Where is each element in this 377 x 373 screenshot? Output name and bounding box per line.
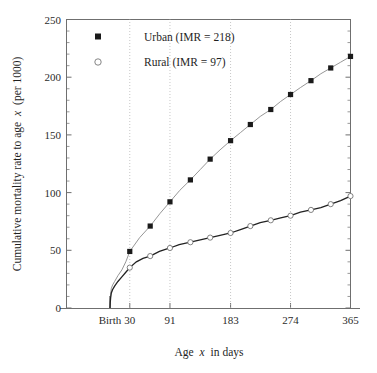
urban-marker-335: [328, 65, 333, 70]
x-axis-title-variable: x: [199, 346, 206, 358]
svg-text:Cumulative mortality rate to a: Cumulative mortality rate to age x (per …: [11, 57, 24, 272]
x-tick-label-Birth: Birth: [99, 314, 122, 326]
y-axis-title-post: (per 1000): [11, 57, 24, 105]
rural-marker-183: [228, 230, 233, 235]
rural-marker-152: [208, 235, 213, 240]
rural-marker-244: [268, 218, 273, 223]
rural-marker-61: [148, 253, 153, 258]
x-tick-label-365: 365: [342, 314, 359, 326]
urban-marker-183: [228, 138, 233, 143]
urban-marker-365: [348, 54, 353, 59]
urban-marker-122: [188, 177, 193, 182]
urban-marker-152: [208, 157, 213, 162]
urban-marker-61: [148, 223, 153, 228]
y-axis-title-pre: Cumulative mortality rate to age: [11, 122, 24, 271]
y-tick-label-100: 100: [45, 187, 62, 199]
rural-marker-122: [188, 240, 193, 245]
legend-label-rural: Rural (IMR = 97): [144, 56, 226, 69]
y-tick-label-200: 200: [45, 71, 62, 83]
legend-label-urban: Urban (IMR = 218): [144, 31, 235, 44]
x-tick-label-183: 183: [222, 314, 239, 326]
legend-marker-urban-filled-square-icon: [95, 34, 101, 40]
rural-marker-274: [288, 213, 293, 218]
y-tick-label-50: 50: [50, 244, 62, 256]
y-axis-title-variable: x: [11, 110, 23, 117]
y-axis-title: Cumulative mortality rate to age x (per …: [11, 57, 24, 272]
x-axis-title-pre: Age: [175, 346, 194, 359]
x-tick-label-274: 274: [282, 314, 299, 326]
rural-marker-30: [127, 265, 132, 270]
rural-marker-335: [328, 202, 333, 207]
urban-marker-305: [308, 78, 313, 83]
rural-marker-213: [248, 223, 253, 228]
chart-svg: 050100150200250 Birth3091183274365 Urban…: [0, 0, 377, 373]
y-tick-label-150: 150: [45, 129, 62, 141]
x-tick-label-91: 91: [164, 314, 175, 326]
rural-marker-365: [348, 193, 353, 198]
y-tick-label-0: 0: [56, 302, 62, 314]
urban-marker-244: [268, 107, 273, 112]
urban-marker-30: [127, 249, 132, 254]
rural-marker-91: [167, 245, 172, 250]
y-tick-label-250: 250: [45, 14, 62, 26]
rural-marker-305: [308, 207, 313, 212]
x-axis-title-post: in days: [211, 346, 244, 359]
urban-marker-213: [248, 122, 253, 127]
x-tick-label-30: 30: [124, 314, 136, 326]
urban-marker-274: [288, 92, 293, 97]
urban-marker-91: [167, 199, 172, 204]
mortality-chart: 050100150200250 Birth3091183274365 Urban…: [0, 0, 377, 373]
